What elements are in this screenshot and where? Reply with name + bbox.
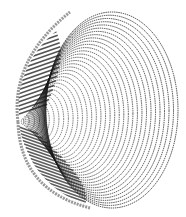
cone-line-art: Monochrome line-art rendering of a cone … <box>0 0 186 217</box>
cone-drawing <box>0 0 186 217</box>
